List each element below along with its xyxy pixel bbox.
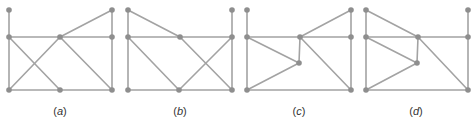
graph-edge [128,10,180,37]
caption-b-text: (b) [173,105,186,117]
graph-edge [300,37,351,90]
graph-a [6,7,115,93]
graph-edge [366,10,418,37]
caption-b: (b) [173,105,186,117]
graph-node [57,34,63,40]
graph-node [229,87,235,93]
graph-node [176,87,182,93]
graph-node [109,34,115,40]
graph-node [348,7,354,13]
graph-node [244,87,250,93]
graph-node [348,87,354,93]
graph-node [6,7,12,13]
graph-node [6,34,12,40]
graph-node [229,7,235,13]
graph-node [244,7,250,13]
caption-c-text: (c) [293,105,306,117]
graph-edge [366,63,417,90]
caption-d: (d) [409,105,422,117]
graph-edge [300,10,351,37]
graph-node [363,87,369,93]
graph-figure [0,0,472,124]
graph-edge [60,37,112,90]
graph-node [296,60,302,66]
graph-node [177,34,183,40]
graph-node [415,34,421,40]
caption-c: (c) [293,105,306,117]
graph-node [125,34,131,40]
graph-node [125,87,131,93]
graph-node [465,7,471,13]
graph-c [244,7,354,93]
graph-edge [247,63,299,90]
graph-node [6,87,12,93]
graph-b [125,7,235,93]
graph-edge [299,37,300,63]
graph-node [109,87,115,93]
graph-node [465,87,471,93]
graph-edge [366,37,417,63]
caption-a: (a) [53,105,66,117]
graph-node [244,34,250,40]
graph-node [297,34,303,40]
graph-edge [128,37,179,90]
graph-node [465,34,471,40]
graph-node [109,7,115,13]
graph-node [57,87,63,93]
graph-node [125,7,131,13]
caption-a-text: (a) [53,105,66,117]
graph-edge [247,37,299,63]
graph-node [229,34,235,40]
graph-node [348,34,354,40]
graph-edge [418,37,468,90]
caption-d-text: (d) [409,105,422,117]
graph-d [363,7,471,93]
graph-edge [60,10,112,37]
graph-edge [417,37,418,63]
graph-node [363,34,369,40]
graph-node [363,7,369,13]
graph-node [414,60,420,66]
